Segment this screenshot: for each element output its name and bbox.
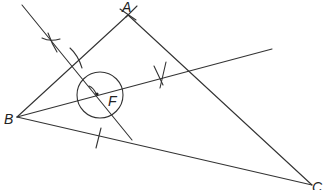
arc-mark-4	[89, 86, 96, 94]
arc-mark-3	[70, 48, 82, 68]
label-B: B	[4, 111, 13, 127]
label-C: C	[312, 179, 323, 190]
side-AC	[128, 15, 312, 185]
bisector-line	[17, 49, 272, 117]
geometry-diagram: A B C F	[0, 0, 326, 190]
label-A: A	[121, 0, 131, 15]
perpendicular-line	[22, 5, 132, 140]
arc-mark-2	[48, 33, 57, 52]
arc-mark-7	[96, 128, 101, 148]
side-BC	[17, 117, 312, 185]
label-F: F	[108, 93, 118, 109]
